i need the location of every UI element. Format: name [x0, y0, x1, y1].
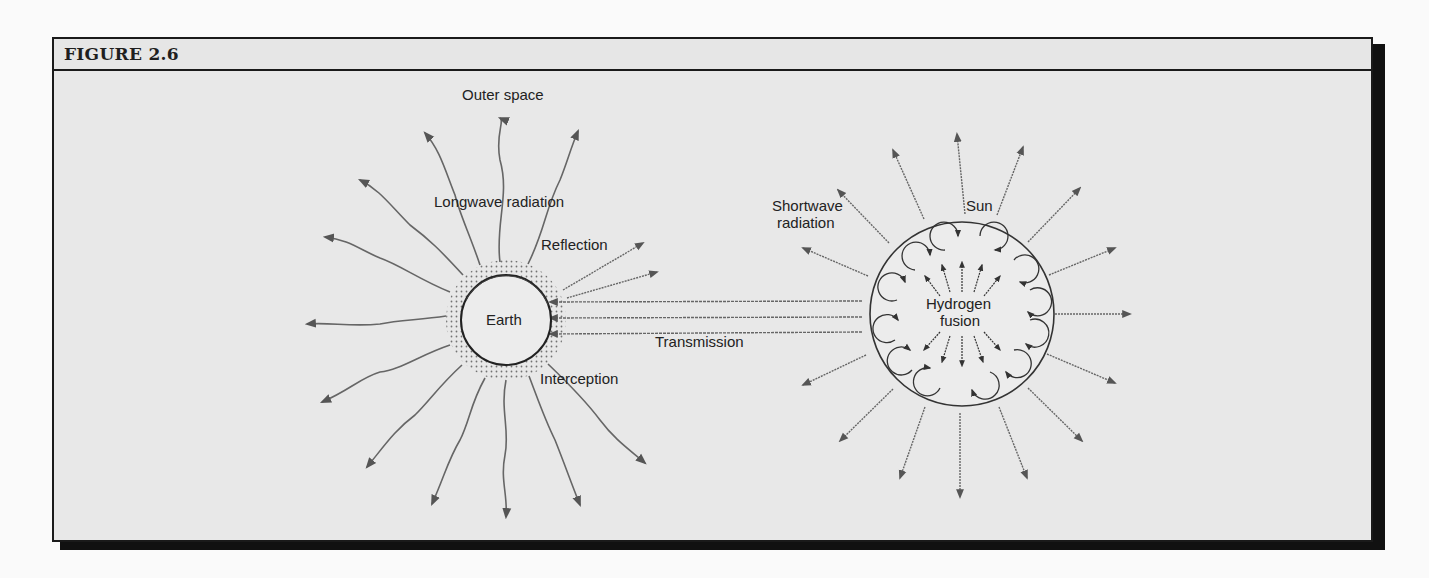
label-outer-space: Outer space [462, 86, 544, 103]
label-interception: Interception [540, 370, 618, 387]
transmission-rays [550, 301, 862, 334]
label-hydrogen: Hydrogen [926, 295, 991, 312]
label-shortwave-line1: Shortwave [772, 197, 843, 214]
label-shortwave-line2: radiation [777, 214, 835, 231]
label-transmission: Transmission [655, 333, 744, 350]
radiation-diagram: Outer space Longwave radiation Reflectio… [0, 0, 1429, 578]
label-longwave-radiation: Longwave radiation [434, 193, 564, 210]
label-reflection: Reflection [541, 236, 608, 253]
label-earth: Earth [486, 311, 522, 328]
label-fusion: fusion [940, 312, 980, 329]
label-sun: Sun [966, 197, 993, 214]
